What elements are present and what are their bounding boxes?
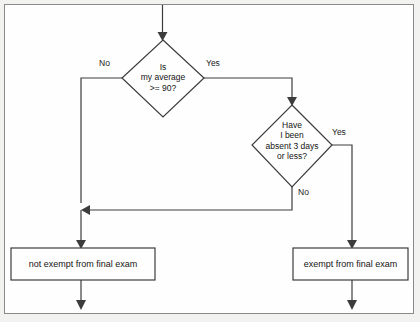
branch-label-average-yes: Yes — [206, 58, 220, 68]
outcome-not-exempt-label: not exempt from final exam — [11, 259, 155, 270]
outcome-exempt-label: exempt from final exam — [293, 259, 408, 270]
branch-label-absences-no: No — [298, 187, 309, 197]
decision-average-label: Is my average >= 90? — [123, 62, 203, 93]
exit-arrow-exempt-head — [347, 300, 357, 310]
flowchart-canvas — [0, 0, 420, 322]
decision-absences-label: Have I been absent 3 days or less? — [250, 120, 334, 161]
edge-average-no — [81, 78, 122, 203]
branch-label-absences-yes: Yes — [332, 127, 346, 137]
diagram-page: Is my average >= 90? No Yes Have I been … — [0, 0, 420, 322]
edge-average-yes — [204, 78, 292, 98]
edge-absences-no-head — [81, 205, 90, 215]
edge-absences-no — [89, 187, 292, 210]
edge-absences-yes — [332, 145, 352, 241]
branch-label-average-no: No — [99, 58, 110, 68]
exit-arrow-not-exempt-head — [76, 300, 86, 310]
